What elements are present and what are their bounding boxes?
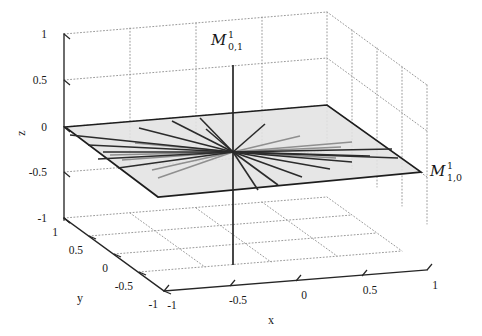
x-axis-label: x — [268, 313, 274, 327]
z-tick-label-4: -1 — [37, 212, 47, 224]
y-tick-labels: 1 0.5 0 -0.5 -1 — [52, 226, 158, 310]
y-tick-label-2: 0 — [102, 262, 108, 274]
y-tick-label-1: 0.5 — [69, 244, 84, 256]
x-tick-label-0: -1 — [167, 299, 177, 311]
x-tick-label-4: 1 — [432, 279, 438, 291]
manifold-plane-sup: 1 — [447, 160, 453, 171]
x-axis-spine — [164, 270, 427, 291]
y-tick-label-4: -1 — [148, 298, 158, 310]
figure-container: 1 0.5 0 -0.5 -1 1 0.5 0 -0.5 -1 -1 -0.5 … — [0, 0, 482, 336]
z-tick-labels: 1 0.5 0 -0.5 -1 — [29, 28, 47, 224]
plane-manifold-annotation: M 1 1,0 — [429, 160, 462, 183]
x-tick-labels: -1 -0.5 0 0.5 1 — [167, 279, 438, 311]
z-axis-label: z — [14, 130, 28, 135]
y-tick-label-0: 1 — [52, 226, 58, 238]
z-tick-label-2: 0 — [41, 121, 47, 133]
x-tick-label-1: -0.5 — [229, 294, 247, 306]
z-tick-label-3: -0.5 — [29, 166, 47, 178]
z-tick-label-0: 1 — [41, 28, 47, 40]
manifold-vertical-base: M — [210, 31, 227, 49]
y-tick-label-3: -0.5 — [115, 280, 133, 292]
vertical-manifold-annotation: M 1 0,1 — [210, 29, 243, 52]
three-d-plot: 1 0.5 0 -0.5 -1 1 0.5 0 -0.5 -1 -1 -0.5 … — [0, 0, 482, 336]
manifold-plane-sub: 1,0 — [447, 172, 462, 183]
manifold-vertical-sub: 0,1 — [228, 41, 243, 52]
x-tick-label-3: 0.5 — [363, 284, 378, 296]
z-tick-label-1: 0.5 — [33, 74, 48, 86]
manifold-vertical-sup: 1 — [228, 29, 234, 40]
y-axis-label: y — [77, 291, 83, 305]
x-tick-label-2: 0 — [301, 289, 307, 301]
manifold-plane-base: M — [429, 162, 446, 180]
